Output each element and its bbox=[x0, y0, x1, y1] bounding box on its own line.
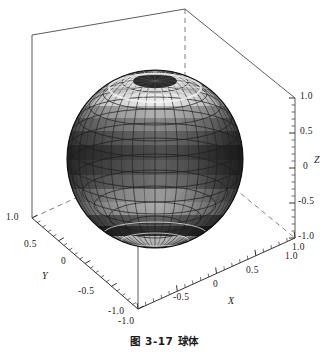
z-tick-label-3: 0 bbox=[303, 162, 308, 172]
sphere-surface bbox=[67, 66, 243, 250]
z-tick-label-2: 0.5 bbox=[300, 127, 313, 137]
z-axis-ticks bbox=[289, 98, 295, 238]
x-tick-label-4: 1.0 bbox=[285, 252, 298, 262]
z-tick-label-1: 1.0 bbox=[300, 92, 313, 102]
y-tick-label-1: 1.0 bbox=[6, 213, 19, 223]
figure-container: 1.0 0.5 0 -0.5 -1.0 Z -0.5 0 0.5 1.0 X 1… bbox=[0, 0, 329, 352]
y-tick-label-3: 0 bbox=[61, 257, 66, 267]
x-min-corner-label: -1.0 bbox=[118, 317, 134, 327]
figure-caption: 图 3-17 球体 bbox=[0, 336, 329, 347]
y-axis-title: Y bbox=[42, 271, 48, 281]
x-tick-label-2: 0 bbox=[213, 280, 218, 290]
x-corner-label: 1.0 bbox=[292, 243, 305, 253]
z-tick-label-5: -1.0 bbox=[298, 232, 314, 242]
x-tick-label-3: 0.5 bbox=[246, 266, 259, 276]
y-tick-label-4: -0.5 bbox=[78, 287, 94, 297]
z-tick-label-4: -0.5 bbox=[298, 197, 314, 207]
y-tick-label-2: 0.5 bbox=[24, 240, 37, 250]
x-axis-title: X bbox=[228, 296, 234, 306]
z-axis-title: Z bbox=[314, 155, 320, 165]
x-tick-label-1: -0.5 bbox=[173, 293, 189, 303]
sphere-plot-3d bbox=[0, 0, 329, 352]
